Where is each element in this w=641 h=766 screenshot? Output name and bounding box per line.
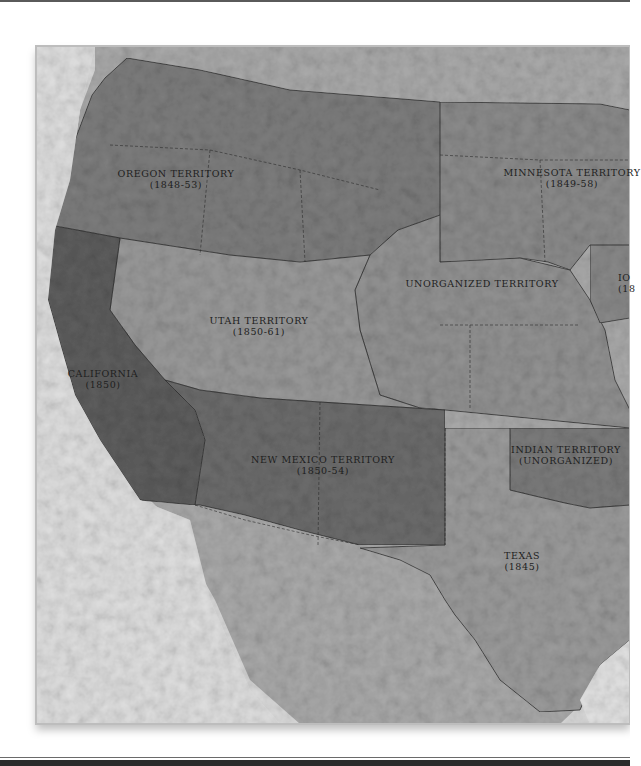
region-dates: (UNORGANIZED) (511, 455, 621, 466)
region-name: TEXAS (504, 550, 540, 561)
label-oregon-territory: OREGON TERRITORY (1848-53) (118, 168, 235, 190)
region-dates: (1850-54) (251, 465, 395, 476)
region-name: UTAH TERRITORY (210, 315, 309, 326)
region-name: NEW MEXICO TERRITORY (251, 454, 395, 465)
region-name: CALIFORNIA (68, 368, 139, 379)
label-minnesota-territory: MINNESOTA TERRITORY (1849-58) (503, 167, 640, 189)
region-dates: (1845) (504, 561, 540, 572)
label-new-mexico-territory: NEW MEXICO TERRITORY (1850-54) (251, 454, 395, 476)
label-texas: TEXAS (1845) (504, 550, 540, 572)
label-utah-territory: UTAH TERRITORY (1850-61) (210, 315, 309, 337)
region-name: OREGON TERRITORY (118, 168, 235, 179)
region-dates: (1848-53) (118, 179, 235, 190)
label-indian-territory: INDIAN TERRITORY (UNORGANIZED) (511, 444, 621, 466)
label-unorganized-territory: UNORGANIZED TERRITORY (405, 278, 558, 289)
region-dates: (1849-58) (503, 178, 640, 189)
region-dates: (1850) (68, 379, 139, 390)
region-dates: (18 (618, 283, 636, 294)
region-name: INDIAN TERRITORY (511, 444, 621, 455)
bottom-border-rule (0, 757, 630, 766)
region-dates: (1850-61) (210, 326, 309, 337)
region-name: MINNESOTA TERRITORY (503, 167, 640, 178)
label-california: CALIFORNIA (1850) (68, 368, 139, 390)
region-name: UNORGANIZED TERRITORY (405, 278, 558, 289)
region-name: IO (618, 272, 631, 283)
label-iowa: IO (18 (618, 272, 636, 294)
